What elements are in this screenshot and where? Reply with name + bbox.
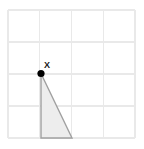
grid-figure: X — [0, 0, 144, 149]
vertex-point-x — [37, 70, 44, 77]
vertex-label-x: X — [44, 60, 50, 70]
figure-container: X — [0, 0, 144, 149]
